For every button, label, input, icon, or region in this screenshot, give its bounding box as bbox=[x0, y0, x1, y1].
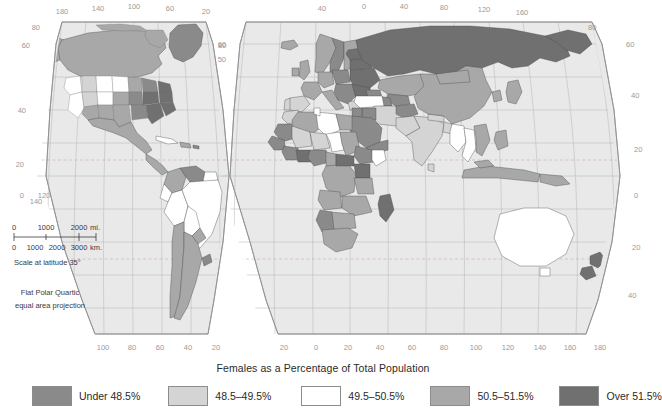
west-lat-80: 80 bbox=[32, 23, 40, 32]
east-bot-lon-20w: 20 bbox=[280, 343, 288, 352]
state-montana bbox=[96, 76, 113, 92]
west-bot-lon-60: 60 bbox=[156, 343, 164, 352]
map-legend: Under 48.5% 48.5–49.5% 49.5–50.5% 50.5–5… bbox=[0, 386, 646, 406]
scale-km-0: 0 bbox=[12, 243, 16, 252]
state-minnesota bbox=[128, 77, 142, 92]
east-right-lat-20s: 20 bbox=[632, 243, 640, 252]
east-left-lat-60: 60 bbox=[218, 40, 226, 49]
legend-swatch-49-5-50-5 bbox=[301, 386, 341, 406]
east-bot-lon-20e: 20 bbox=[344, 343, 352, 352]
legend-label-over-51-5: Over 51.5% bbox=[606, 390, 661, 402]
legend-label-48-5-49-5: 48.5–49.5% bbox=[215, 390, 271, 402]
world-map-svg: 180 140 100 60 20 80 60 40 20 0 80 140 1… bbox=[0, 0, 646, 356]
west-top-lon-60: 60 bbox=[166, 4, 174, 13]
legend-item-50-5-51-5[interactable]: 50.5–51.5% bbox=[430, 386, 533, 406]
west-top-lon-20: 20 bbox=[202, 7, 210, 16]
scale-mi-unit: mi. bbox=[90, 223, 100, 232]
east-bot-lon-140: 140 bbox=[534, 343, 547, 352]
east-right-lat-40s: 40 bbox=[628, 291, 636, 300]
scale-mi-0: 0 bbox=[12, 223, 16, 232]
legend-label-49-5-50-5: 49.5–50.5% bbox=[348, 390, 404, 402]
country-ireland bbox=[292, 68, 299, 76]
legend-item-49-5-50-5[interactable]: 49.5–50.5% bbox=[301, 386, 404, 406]
west-bot-lon-80: 80 bbox=[128, 343, 136, 352]
east-left-lat-50: 50 bbox=[218, 55, 226, 64]
east-top-lon-0: 0 bbox=[362, 2, 366, 11]
country-north-south-korea bbox=[492, 90, 502, 102]
west-top-lon-180: 180 bbox=[56, 7, 69, 16]
state-nebraska-kansas bbox=[113, 92, 129, 105]
west-bot-lon-20: 20 bbox=[212, 343, 220, 352]
legend-swatch-over-51-5 bbox=[559, 386, 599, 406]
east-top-lon-160: 160 bbox=[516, 8, 529, 17]
east-right-lat-80: 80 bbox=[588, 23, 596, 32]
east-right-lat-40: 40 bbox=[631, 91, 639, 100]
state-new-mexico bbox=[98, 105, 114, 120]
east-top-lon-40w: 40 bbox=[318, 4, 326, 13]
projection-type: equal area projection bbox=[15, 301, 85, 310]
scale-mi-2000: 2000 bbox=[71, 223, 88, 232]
east-right-lat-20: 20 bbox=[634, 145, 642, 154]
state-illinois-ohio bbox=[143, 92, 159, 105]
map-caption: Females as a Percentage of Total Populat… bbox=[0, 362, 646, 374]
east-right-lat-0: 0 bbox=[634, 191, 638, 200]
west-lat-0: 0 bbox=[20, 191, 24, 200]
state-arkansas-louisiana bbox=[131, 105, 148, 120]
east-top-lon-40e: 40 bbox=[400, 2, 408, 11]
west-bot-lon-40: 40 bbox=[184, 343, 192, 352]
legend-label-under-48-5: Under 48.5% bbox=[79, 390, 140, 402]
west-lat-40: 40 bbox=[18, 106, 26, 115]
state-mid-atlantic bbox=[159, 92, 173, 103]
scale-km-3000: 3000 bbox=[71, 243, 88, 252]
east-top-lon-80: 80 bbox=[440, 3, 448, 12]
projection-name: Flat Polar Quartic bbox=[21, 288, 80, 297]
west-lat-60: 60 bbox=[22, 41, 30, 50]
state-north-dakota bbox=[112, 76, 129, 92]
country-kenya-uganda bbox=[354, 164, 370, 178]
map-canvas: 180 140 100 60 20 80 60 40 20 0 80 140 1… bbox=[0, 0, 646, 356]
scale-latitude-note: Scale at latitude 35° bbox=[14, 258, 81, 267]
east-hemisphere-panel bbox=[219, 22, 623, 334]
west-lon-120-lower: 120 bbox=[38, 191, 51, 200]
projection-note: Flat Polar Quartic equal area projection bbox=[15, 288, 85, 310]
legend-label-50-5-51-5: 50.5–51.5% bbox=[477, 390, 533, 402]
east-bot-lon-0: 0 bbox=[314, 343, 318, 352]
island-tasmania bbox=[540, 268, 550, 276]
east-bot-lon-160: 160 bbox=[564, 343, 577, 352]
legend-item-under-48-5[interactable]: Under 48.5% bbox=[32, 386, 140, 406]
legend-item-48-5-49-5[interactable]: 48.5–49.5% bbox=[168, 386, 271, 406]
legend-item-over-51-5[interactable]: Over 51.5% bbox=[559, 386, 661, 406]
scale-km-1000: 1000 bbox=[27, 243, 44, 252]
west-top-lon-140: 140 bbox=[92, 4, 105, 13]
scale-mi-1000: 1000 bbox=[38, 223, 55, 232]
east-bot-lon-40: 40 bbox=[376, 343, 384, 352]
west-top-lon-100: 100 bbox=[128, 2, 141, 11]
state-idaho-montana-w bbox=[82, 76, 97, 92]
legend-swatch-48-5-49-5 bbox=[168, 386, 208, 406]
scale-km-unit: km. bbox=[90, 243, 102, 252]
east-top-lon-120: 120 bbox=[478, 5, 491, 14]
state-iowa-missouri bbox=[129, 92, 143, 105]
scale-km-2000: 2000 bbox=[49, 243, 66, 252]
country-central-african-republic bbox=[336, 154, 354, 166]
east-right-lat-60: 60 bbox=[626, 40, 634, 49]
legend-swatch-under-48-5 bbox=[32, 386, 72, 406]
west-lat-20: 20 bbox=[16, 160, 24, 169]
legend-swatch-50-5-51-5 bbox=[430, 386, 470, 406]
state-nevada-utah bbox=[82, 92, 98, 107]
state-wyoming-colorado bbox=[97, 92, 113, 105]
east-bot-lon-100: 100 bbox=[470, 343, 483, 352]
east-bot-lon-60: 60 bbox=[408, 343, 416, 352]
west-bot-lon-100: 100 bbox=[97, 343, 110, 352]
east-bot-lon-180: 180 bbox=[594, 343, 607, 352]
east-bot-lon-80: 80 bbox=[440, 343, 448, 352]
east-bot-lon-120: 120 bbox=[502, 343, 515, 352]
